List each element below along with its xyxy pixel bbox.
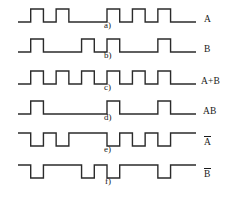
signal-label-not-b: B: [204, 168, 211, 179]
sub-label-f: f): [105, 176, 111, 186]
overbar-f: B: [204, 168, 211, 179]
sub-label-a: a): [104, 20, 111, 30]
sub-label-d: d): [104, 112, 112, 122]
sub-label-e: e): [104, 144, 111, 154]
signal-label-a-or-b: A+B: [201, 76, 220, 86]
signal-label-b: B: [204, 44, 211, 54]
signal-label-a: A: [204, 14, 211, 24]
signal-label-a-and-b: AB: [203, 106, 217, 116]
sub-label-c: c): [104, 82, 111, 92]
timing-diagram-figure: A B A+B AB A B a) b) c) d) e) f): [0, 0, 230, 198]
signal-label-not-a: A: [204, 136, 211, 147]
sub-label-b: b): [104, 50, 112, 60]
overbar-e: A: [204, 136, 211, 147]
waveform-canvas: [0, 0, 230, 198]
